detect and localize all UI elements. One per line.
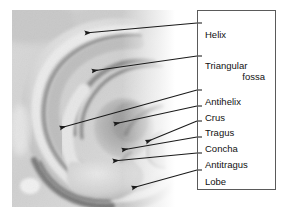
label-helix: Helix — [205, 29, 226, 40]
label-triangular-fossa: Triangular — [205, 60, 247, 71]
leader-line-crus — [114, 106, 197, 124]
ear-anatomy-figure: HelixTriangularfossaAntihelixCrusTragusC… — [0, 0, 284, 215]
leader-line-helix — [85, 23, 197, 33]
label-crus: Crus — [205, 112, 225, 123]
leader-line-lobe — [132, 170, 197, 188]
label-lobe: Lobe — [205, 176, 226, 187]
leader-line-triangular-fossa — [92, 56, 197, 71]
label-list: HelixTriangularfossaAntihelixCrusTragusC… — [197, 10, 276, 190]
label-triangular-fossa-line2: fossa — [197, 71, 265, 82]
leader-line-concha — [122, 137, 197, 150]
label-antihelix: Antihelix — [205, 96, 241, 107]
label-concha: Concha — [205, 143, 238, 154]
label-tragus: Tragus — [205, 127, 234, 138]
label-antitragus: Antitragus — [205, 159, 248, 170]
leader-line-antihelix — [60, 90, 197, 128]
leader-line-antitragus — [113, 153, 197, 161]
